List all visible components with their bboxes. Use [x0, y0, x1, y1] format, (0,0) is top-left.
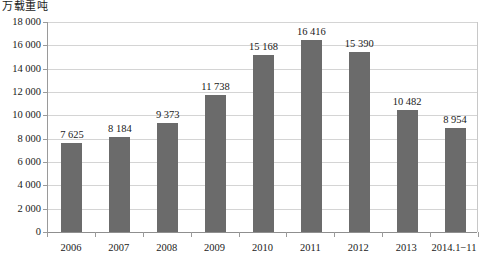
y-axis-tick-label: 8 000 — [1, 133, 41, 144]
y-axis-tick-label: 18 000 — [1, 16, 41, 27]
x-axis-tick-mark — [143, 232, 144, 237]
bar — [205, 95, 226, 232]
x-axis-tick-mark — [239, 232, 240, 237]
bar — [61, 143, 82, 232]
bar-value-label: 9 373 — [139, 109, 197, 121]
x-axis-tick-mark — [95, 232, 96, 237]
bar-value-label: 11 738 — [187, 81, 245, 93]
y-axis-unit-label: 万载重吨 — [2, 0, 48, 13]
bar — [301, 40, 322, 232]
x-axis-tick-mark — [382, 232, 383, 237]
bar — [397, 110, 418, 232]
y-axis-tick-label: 10 000 — [1, 109, 41, 120]
bar-value-label: 8 954 — [426, 114, 484, 126]
bar-value-label: 15 390 — [330, 38, 388, 50]
gridline — [48, 22, 477, 23]
bar — [157, 123, 178, 232]
x-axis-tick-mark — [47, 232, 48, 237]
x-axis-tick-mark — [478, 232, 479, 237]
bar — [109, 137, 130, 232]
x-axis-tick-mark — [430, 232, 431, 237]
x-axis-tick-mark — [334, 232, 335, 237]
bar-value-label: 8 184 — [91, 123, 149, 135]
bar — [253, 55, 274, 232]
x-axis-tick-mark — [286, 232, 287, 237]
y-axis-tick-label: 0 — [1, 226, 41, 237]
y-axis-tick-label: 2 000 — [1, 203, 41, 214]
y-axis-tick-label: 16 000 — [1, 39, 41, 50]
y-axis-tick-label: 12 000 — [1, 86, 41, 97]
y-axis-tick-label: 6 000 — [1, 156, 41, 167]
x-axis-tick-mark — [191, 232, 192, 237]
y-axis-tick-label: 4 000 — [1, 179, 41, 190]
bar — [349, 52, 370, 232]
bar-value-label: 16 416 — [282, 26, 340, 38]
bar-chart: 万载重吨 18 00016 00014 00012 00010 0008 000… — [0, 0, 492, 268]
bar-value-label: 15 168 — [235, 41, 293, 53]
x-axis-tick-label: 2014.1−11 — [419, 241, 489, 254]
bar-value-label: 10 482 — [378, 96, 436, 108]
y-axis-tick-label: 14 000 — [1, 63, 41, 74]
gridline — [48, 232, 477, 233]
plot-area: 7 6258 1849 37311 73815 16816 41615 3901… — [47, 22, 478, 232]
bar — [445, 128, 466, 232]
